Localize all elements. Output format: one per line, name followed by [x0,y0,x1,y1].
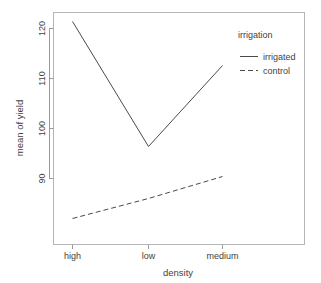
legend: irrigation irrigated control [238,30,296,76]
legend-label-irrigated: irrigated [263,52,296,62]
x-axis-title: density [163,267,193,278]
series-line-control [73,177,223,219]
y-tick-label-100: 100 [37,121,47,136]
x-tick-label-high: high [64,251,81,261]
y-axis-title: mean of yield [14,100,25,157]
x-axis-ticks [73,245,223,249]
y-tick-label-110: 110 [37,71,47,85]
plot-frame [54,13,305,245]
x-tick-label-low: low [142,251,156,261]
legend-label-control: control [263,66,290,76]
legend-title: irrigation [238,30,273,40]
y-axis-ticks [49,29,54,179]
y-tick-label-120: 120 [37,21,47,36]
y-tick-label-90: 90 [37,173,47,183]
interaction-plot: 120 110 100 90 mean of yield high low me… [0,0,321,283]
x-tick-label-medium: medium [206,251,238,261]
chart-canvas: 120 110 100 90 mean of yield high low me… [0,0,321,283]
series-line-irrigated [73,22,223,147]
